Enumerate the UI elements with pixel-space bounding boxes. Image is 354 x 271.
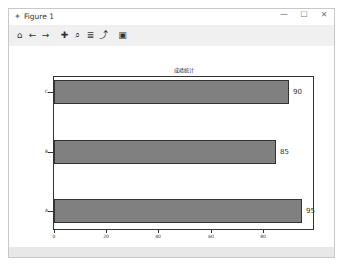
window-title: Figure 1 [24, 12, 54, 21]
xtick-0 [54, 230, 55, 233]
figure-window: ✦ Figure 1 — ☐ ✕ ⌂ ← → ✚ ⌕ ≣ ⤴ ▣ 成绩统计 90… [8, 8, 335, 258]
xtick-20 [106, 230, 107, 233]
ytick-a [48, 211, 53, 212]
zoom-icon[interactable]: ⌕ [72, 29, 83, 41]
bar-a [54, 199, 302, 223]
ylabel-b: B [40, 149, 48, 154]
ytick-b [48, 152, 53, 153]
home-icon[interactable]: ⌂ [14, 29, 25, 41]
xlabel-80: 80 [257, 234, 269, 239]
maximize-button[interactable]: ☐ [297, 10, 311, 19]
subplots-icon[interactable]: ≣ [85, 29, 96, 41]
bar-label-c: 90 [293, 88, 302, 96]
figure-icon: ✦ [14, 12, 21, 21]
bar-c [54, 80, 289, 104]
xtick-60 [211, 230, 212, 233]
ylabel-c: C [40, 89, 48, 94]
forward-icon[interactable]: → [40, 29, 51, 41]
xlabel-40: 40 [152, 234, 164, 239]
bar-label-b: 85 [280, 148, 289, 156]
minimize-button[interactable]: — [277, 10, 291, 19]
title-bar: ✦ Figure 1 — ☐ ✕ [9, 9, 334, 25]
figure-canvas[interactable]: 成绩统计 90 C 85 B 95 A 0 20 40 60 [9, 46, 334, 247]
ytick-c [48, 92, 53, 93]
xtick-40 [158, 230, 159, 233]
bar-b [54, 140, 276, 164]
edit-axes-icon[interactable]: ⤴ [98, 29, 109, 41]
navigation-toolbar: ⌂ ← → ✚ ⌕ ≣ ⤴ ▣ [9, 25, 334, 46]
xlabel-0: 0 [48, 234, 60, 239]
xlabel-60: 60 [205, 234, 217, 239]
xtick-80 [263, 230, 264, 233]
bar-label-a: 95 [306, 207, 315, 215]
xlabel-20: 20 [100, 234, 112, 239]
back-icon[interactable]: ← [27, 29, 38, 41]
ylabel-a: A [40, 208, 48, 213]
close-button[interactable]: ✕ [317, 10, 331, 19]
save-icon[interactable]: ▣ [117, 29, 128, 41]
chart-title: 成绩统计 [53, 66, 314, 73]
status-bar [9, 247, 334, 257]
pan-icon[interactable]: ✚ [59, 29, 70, 41]
plot-axes: 90 C 85 B 95 A 0 20 40 60 80 [53, 76, 314, 230]
